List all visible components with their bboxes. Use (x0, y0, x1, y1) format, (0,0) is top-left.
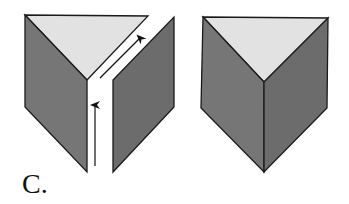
prism-diagram (0, 0, 349, 204)
unfolded-prism (25, 15, 174, 172)
closed-prism (201, 17, 328, 172)
figure-label: C. (22, 170, 48, 198)
